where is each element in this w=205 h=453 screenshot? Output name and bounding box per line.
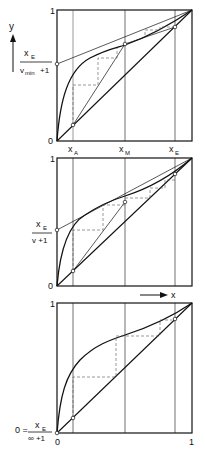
panel-2-finite-reflux: [55, 158, 192, 286]
diagonal-line: [57, 10, 192, 141]
svg-text:E: E: [31, 54, 35, 60]
stage-steps: [73, 180, 175, 271]
x-tick-xA: x: [68, 144, 73, 154]
y-tick-1: 1: [50, 6, 55, 16]
diagonal-operating-line: [57, 303, 192, 433]
x-tick-xE: x: [169, 144, 174, 154]
svg-text:+1: +1: [40, 66, 50, 75]
rectifying-operating-line: [57, 158, 192, 230]
y-axis-label: y: [9, 21, 14, 32]
svg-text:E: E: [42, 426, 46, 432]
svg-text:1: 1: [50, 299, 55, 309]
svg-text:v +1: v +1: [32, 236, 48, 245]
svg-text:v: v: [20, 66, 24, 75]
stripping-operating-line: [73, 202, 125, 271]
x-axis-arrow: [140, 292, 168, 298]
intercept-numerator: x: [24, 48, 29, 58]
svg-text:min: min: [25, 70, 35, 76]
y-axis-arrow: [10, 34, 16, 72]
svg-text:0: 0: [48, 281, 53, 291]
y-tick-0: 0: [48, 136, 53, 146]
x-tick-0: 0: [55, 437, 60, 447]
intercept-prefix: 0 =: [15, 425, 28, 435]
svg-text:1: 1: [50, 154, 55, 164]
panel-1-minimum-reflux: [55, 10, 192, 141]
panel-3-total-reflux: [55, 303, 192, 435]
svg-text:E: E: [175, 150, 179, 156]
x-tick-1: 1: [189, 437, 194, 447]
x-axis-label: x: [171, 290, 176, 300]
svg-text:x: x: [35, 420, 40, 430]
intercept-numerator: x: [36, 219, 41, 229]
x-tick-xM: x: [119, 144, 124, 154]
mccabe-thiele-diagram: 1 0 y x E v min +1 x A x M x E 1 0 x E: [0, 0, 205, 453]
rectifying-operating-line: [57, 10, 192, 64]
svg-text:M: M: [125, 150, 130, 156]
svg-text:∞ +1: ∞ +1: [28, 434, 46, 443]
svg-text:E: E: [43, 225, 47, 231]
svg-text:A: A: [74, 150, 78, 156]
